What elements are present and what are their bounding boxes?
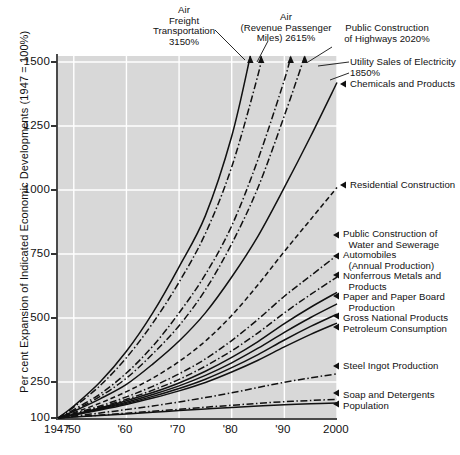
x-tick-2000: 2000: [323, 423, 349, 436]
label-air-freight-transportation: Air Freight Transportation 3150%: [136, 5, 232, 47]
economic-expansion-chart: Per cent Expansion of Indicated Economic…: [0, 0, 460, 455]
label-automobiles-annual-production: Automobiles (Annual Production): [343, 250, 434, 271]
y-tick-mark: [51, 317, 57, 319]
label-steel-ingot-production: Steel Ingot Production: [343, 361, 439, 372]
y-tick-1250: 1250: [0, 119, 50, 131]
x-tick-60: '60: [117, 423, 132, 436]
y-tick-250: 250: [0, 375, 50, 387]
label-utility-sales-electricity: Utility Sales of Electricity 1850%: [350, 57, 456, 78]
y-tick-mark: [51, 381, 57, 383]
x-tick-80: '80: [223, 423, 238, 436]
label-public-construction-water: Public Construction of Water and Sewerag…: [343, 229, 439, 250]
label-population: Population: [343, 401, 389, 412]
y-tick-100: 100: [0, 411, 50, 423]
label-soap-and-detergents: Soap and Detergents: [343, 390, 435, 401]
y-tick-mark: [51, 417, 57, 419]
y-tick-1500: 1500: [0, 55, 50, 67]
y-tick-750: 750: [0, 247, 50, 259]
x-tick-70: '70: [170, 423, 185, 436]
label-petroleum-consumption: Petroleum Consumption: [343, 324, 447, 335]
y-tick-500: 500: [0, 311, 50, 323]
y-tick-mark: [51, 189, 57, 191]
y-tick-mark: [51, 253, 57, 255]
y-tick-mark: [51, 61, 57, 63]
x-tick-90: '90: [275, 423, 290, 436]
label-gross-national-products: Gross National Products: [343, 313, 448, 324]
label-residential-construction: Residential Construction: [350, 180, 455, 191]
plot-area: [58, 56, 337, 418]
label-paper-and-paper-board: Paper and Paper Board Production: [343, 292, 445, 313]
label-public-construction-highways: Public Construction of Highways 2020%: [325, 23, 449, 44]
y-tick-1000: 1000: [0, 183, 50, 195]
label-nonferrous-metals: Nonferrous Metals and Products: [343, 271, 441, 292]
x-axis-line: [56, 418, 337, 420]
x-tick-50: '50: [66, 423, 81, 436]
label-chemicals-and-products: Chemicals and Products: [350, 79, 455, 90]
y-axis-title: Per cent Expansion of Indicated Economic…: [18, 63, 30, 393]
y-tick-mark: [51, 125, 57, 127]
y-axis-line: [56, 54, 58, 420]
